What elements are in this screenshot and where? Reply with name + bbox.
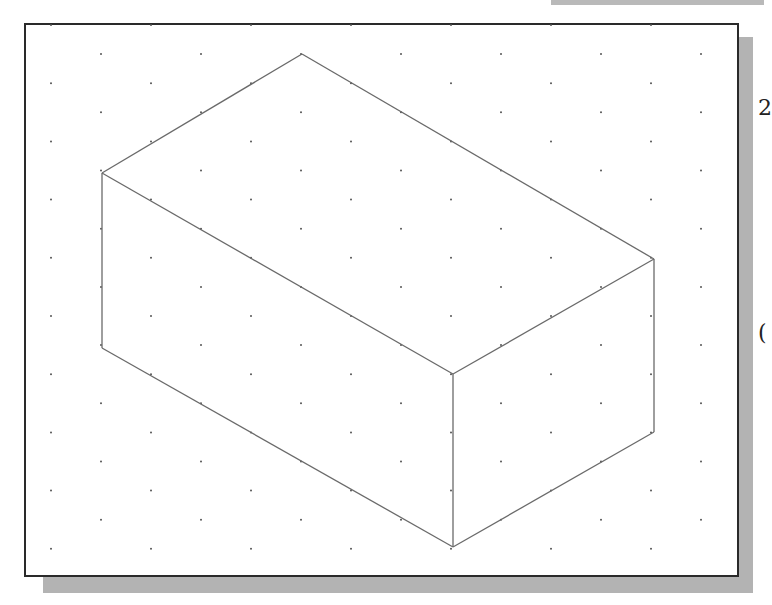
grid-dot [500,228,502,230]
grid-dot [450,548,452,550]
grid-dot [50,548,52,550]
grid-dot [450,257,452,259]
grid-dot [100,111,102,113]
grid-dot [100,53,102,55]
grid-dot [700,519,702,521]
grid-dot [550,373,552,375]
grid-dot [250,373,252,375]
grid-dot [700,402,702,404]
grid-dot [300,170,302,172]
grid-dot [300,228,302,230]
grid-dot [350,199,352,201]
grid-dot [150,315,152,317]
grid-dot [200,519,202,521]
grid-dot [500,286,502,288]
grid-dot [700,344,702,346]
grid-dot [200,170,202,172]
grid-dot [400,228,402,230]
grid-dot [50,431,52,433]
grid-dot [550,548,552,550]
grid-dot [50,490,52,492]
grid-dot [600,53,602,55]
grid-dot [200,286,202,288]
grid-dot [700,228,702,230]
box-edge [453,259,654,374]
grid-dot [50,82,52,84]
grid-dot [500,461,502,463]
grid-dot [200,344,202,346]
grid-dot [150,490,152,492]
isometric-box [102,54,654,547]
grid-dot [650,490,652,492]
grid-dot [350,24,352,26]
box-edge [453,432,654,547]
grid-dot [150,431,152,433]
grid-dot [300,111,302,113]
grid-dot [350,140,352,142]
grid-dot [350,431,352,433]
grid-dot [650,82,652,84]
clipped-text-glyph: 2 [758,97,772,119]
grid-dot [650,315,652,317]
grid-dot [100,519,102,521]
grid-dot [50,24,52,26]
grid-dot [550,431,552,433]
grid-dot [300,344,302,346]
grid-dot [50,315,52,317]
grid-dot [350,373,352,375]
grid-dot [150,140,152,142]
grid-dot [550,24,552,26]
grid-dot [300,402,302,404]
grid-dot [250,199,252,201]
grid-dot [550,315,552,317]
grid-dot [400,402,402,404]
grid-dot [150,82,152,84]
grid-dot [100,461,102,463]
grid-dot [400,286,402,288]
grid-dot [500,402,502,404]
clipped-text-glyph: ( [758,322,767,344]
grid-dot [650,140,652,142]
grid-dot [450,490,452,492]
grid-dot [250,315,252,317]
grid-dot [50,199,52,201]
grid-dot [450,24,452,26]
grid-dot [50,373,52,375]
grid-dot [450,315,452,317]
grid-dot [700,170,702,172]
grid-dot [50,257,52,259]
box-edge [102,348,453,547]
grid-dot [200,53,202,55]
grid-dot [200,461,202,463]
grid-dot [400,53,402,55]
grid-dot [600,344,602,346]
box-edge [302,54,654,259]
grid-dot [650,24,652,26]
grid-dot [250,490,252,492]
grid-dot [400,519,402,521]
grid-dot [700,111,702,113]
grid-dot [600,170,602,172]
grid-dot [650,373,652,375]
grid-dot [550,140,552,142]
grid-dot [50,140,52,142]
grid-dot [400,461,402,463]
grid-dot [550,82,552,84]
grid-dot [700,53,702,55]
grid-dot [150,548,152,550]
grid-dot [350,257,352,259]
grid-dot [450,82,452,84]
grid-dot [350,548,352,550]
box-edge [102,54,302,173]
grid-dot [550,257,552,259]
grid-dot [700,286,702,288]
grid-dot [600,519,602,521]
grid-dot [650,548,652,550]
grid-dot [250,140,252,142]
grid-dot [100,170,102,172]
grid-dot [450,431,452,433]
grid-dot [150,24,152,26]
grid-dot [600,402,602,404]
grid-dot [600,286,602,288]
